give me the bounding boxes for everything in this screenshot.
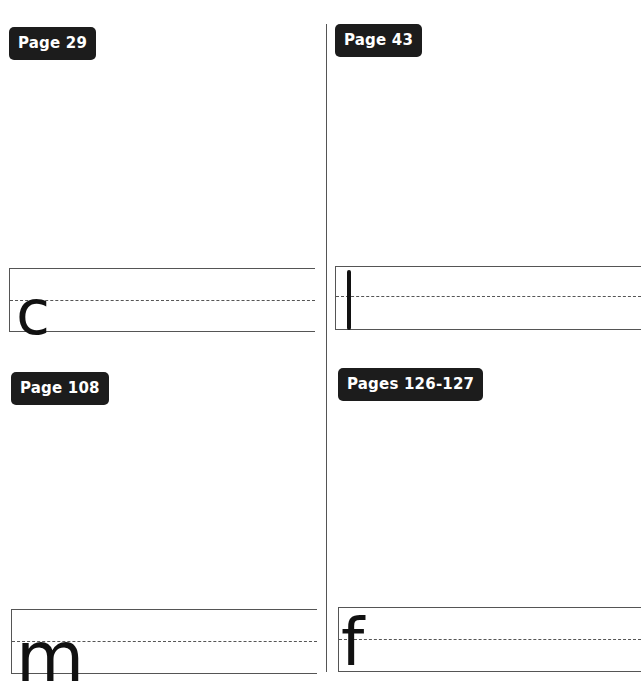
- midline: [339, 639, 641, 640]
- page-label: Page 29: [9, 27, 96, 60]
- handwriting-guide: m: [11, 609, 317, 674]
- sample-letter: m: [16, 622, 84, 682]
- column-divider: [326, 24, 327, 672]
- handwriting-guide: c: [9, 268, 315, 332]
- page-label: Page 108: [11, 372, 109, 405]
- handwriting-guide: [335, 266, 641, 330]
- sample-letter: c: [16, 282, 50, 344]
- page-label: Page 43: [335, 24, 422, 57]
- sample-letter: f: [341, 610, 364, 676]
- sample-letter-stroke: [347, 270, 351, 330]
- page-label: Pages 126-127: [338, 368, 483, 401]
- midline: [10, 300, 315, 301]
- handwriting-guide: f: [338, 607, 641, 672]
- midline: [336, 296, 641, 297]
